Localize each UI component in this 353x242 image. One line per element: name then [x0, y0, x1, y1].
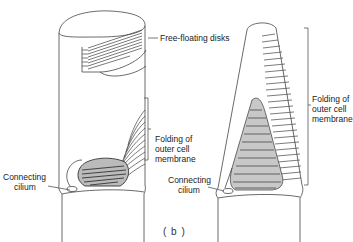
rod-diagram: [48, 11, 158, 242]
label-rod-cilium-2: cilium: [14, 182, 36, 192]
rod-base-folds: [78, 158, 129, 186]
label-rod-folding-3: membrane: [155, 154, 196, 164]
cone-base-folds: [230, 98, 283, 190]
label-cone-cilium-2: cilium: [178, 185, 200, 195]
label-rod-folding-1: Folding of: [155, 134, 192, 144]
cone-diagram: [208, 23, 311, 242]
free-floating-disks: [82, 30, 142, 69]
label-free-floating-disks: Free-floating disks: [160, 33, 229, 43]
label-cone-cilium-1: Connecting: [168, 175, 211, 185]
label-cone-folding-3: membrane: [312, 114, 353, 124]
label-rod-cilium-1: Connecting: [3, 172, 46, 182]
label-cone-folding-2: outer cell: [312, 104, 347, 114]
label-rod-folding-2: outer cell: [155, 144, 190, 154]
label-cone-folding-1: Folding of: [312, 94, 349, 104]
figure-caption: ( b ): [163, 226, 186, 237]
